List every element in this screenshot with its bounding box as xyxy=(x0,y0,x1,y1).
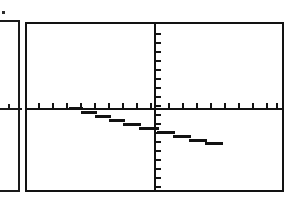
x-axis-tick xyxy=(150,103,152,108)
plot-area[interactable] xyxy=(27,24,282,190)
y-axis-tick xyxy=(156,33,161,35)
x-axis-tick xyxy=(252,103,254,108)
function-line-segment xyxy=(95,115,111,118)
y-axis-tick xyxy=(156,150,161,152)
x-axis-tick xyxy=(122,103,124,108)
y-axis-tick xyxy=(156,114,161,116)
y-axis-tick xyxy=(156,105,161,107)
function-line-segment xyxy=(123,123,141,126)
x-axis-tick xyxy=(266,103,268,108)
function-line-segment xyxy=(81,111,97,114)
y-axis-tick xyxy=(156,168,161,170)
function-line-segment xyxy=(139,127,159,130)
function-line-segment xyxy=(173,135,191,138)
partial-x-axis xyxy=(0,108,22,110)
x-axis-tick xyxy=(276,103,278,108)
calculator-screenshot xyxy=(0,0,299,201)
x-axis-tick xyxy=(224,103,226,108)
y-axis-tick xyxy=(156,141,161,143)
y-axis-tick xyxy=(156,69,161,71)
y-axis-tick xyxy=(156,186,161,188)
partial-calculator-screen xyxy=(0,20,20,192)
x-axis-tick xyxy=(136,103,138,108)
x-axis-tick xyxy=(238,103,240,108)
calculator-viewing-window[interactable] xyxy=(25,22,284,192)
x-axis-tick xyxy=(52,103,54,108)
y-axis xyxy=(154,24,156,190)
x-axis-tick xyxy=(94,103,96,108)
y-axis-tick xyxy=(156,78,161,80)
y-axis-tick xyxy=(156,123,161,125)
y-axis-tick xyxy=(156,87,161,89)
speck-artifact xyxy=(2,11,5,14)
x-axis-tick xyxy=(38,103,40,108)
x-axis-tick xyxy=(168,103,170,108)
x-axis-tick xyxy=(182,103,184,108)
x-axis-tick xyxy=(210,103,212,108)
y-axis-tick xyxy=(156,60,161,62)
y-axis-tick xyxy=(156,96,161,98)
function-line-segment xyxy=(157,131,175,134)
y-axis-tick xyxy=(156,177,161,179)
x-axis-tick xyxy=(196,103,198,108)
y-axis-tick xyxy=(156,42,161,44)
function-line-segment xyxy=(69,107,83,110)
y-axis-tick xyxy=(156,159,161,161)
partial-x-tick xyxy=(8,104,10,108)
x-axis-tick xyxy=(108,103,110,108)
y-axis-tick xyxy=(156,51,161,53)
function-line-segment xyxy=(109,119,125,122)
x-axis-tick xyxy=(66,103,68,108)
function-line-segment xyxy=(205,142,223,145)
